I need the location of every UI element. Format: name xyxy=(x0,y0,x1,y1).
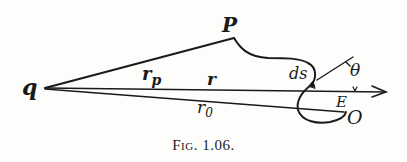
label-P: P xyxy=(222,15,237,35)
label-r-0: r0 xyxy=(197,99,213,119)
figure-caption: Fig. 1.06. xyxy=(0,137,407,154)
caption-prefix: Fig. xyxy=(172,137,198,153)
label-r-p-sub: p xyxy=(151,72,161,88)
caption-number: 1.06. xyxy=(202,137,235,153)
label-r: r xyxy=(207,71,216,88)
line-r-p xyxy=(45,38,234,88)
label-r-0-sub: 0 xyxy=(205,106,213,120)
label-ds: ds xyxy=(289,66,307,82)
label-r-0-base: r xyxy=(197,97,205,117)
label-theta: θ xyxy=(350,62,360,79)
theta-tick-lower-icon xyxy=(353,87,357,91)
label-E: E xyxy=(336,95,347,110)
figure-1-06: q P rp r r0 ds θ E O Fig. 1.06. xyxy=(0,0,407,162)
label-q: q xyxy=(22,76,37,98)
line-field-direction xyxy=(317,57,353,80)
label-r-p: rp xyxy=(142,65,161,87)
label-O: O xyxy=(347,108,363,127)
